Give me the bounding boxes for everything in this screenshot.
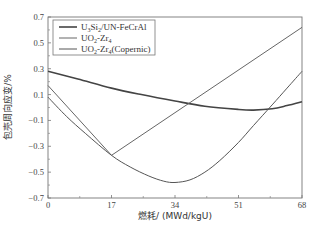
- chart: 0.70.50.30.1−0.1−0.3−0.5−0.7 017345168 U…: [0, 0, 316, 234]
- y-tick-label: 0.3: [33, 64, 44, 74]
- y-axis-title: 包壳周向应变/%: [2, 74, 13, 140]
- legend: U3Si2/UN-FeCrAlUO2-Zr4UO2-Zr4(Copernic): [53, 20, 155, 55]
- x-axis: 017345168: [46, 195, 306, 210]
- x-tick-label: 0: [46, 200, 50, 210]
- x-axis-title: 燃耗/ (MWd/kgU): [138, 210, 212, 221]
- y-tick-label: 0.7: [33, 12, 44, 22]
- legend-label: UO2-Zr4(Copernic): [81, 44, 150, 55]
- legend-label: U3Si2/UN-FeCrAl: [81, 22, 147, 33]
- y-tick-label: −0.1: [29, 115, 44, 125]
- y-tick-label: 0.5: [33, 38, 44, 48]
- x-tick-label: 68: [298, 200, 307, 210]
- x-tick-label: 34: [171, 200, 180, 210]
- legend-label: UO2-Zr4: [81, 33, 112, 44]
- y-tick-label: 0.1: [33, 90, 44, 100]
- y-tick-label: −0.7: [29, 193, 44, 203]
- x-tick-label: 51: [234, 200, 243, 210]
- series-line-0: [48, 71, 302, 110]
- y-tick-label: −0.3: [29, 141, 44, 151]
- x-tick-label: 17: [107, 200, 116, 210]
- y-tick-label: −0.5: [29, 167, 44, 177]
